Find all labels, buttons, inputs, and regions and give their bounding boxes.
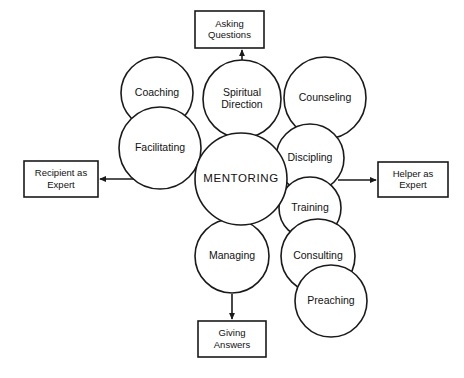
node-preaching[interactable]: Preaching: [295, 265, 367, 337]
node-label-coaching: Coaching: [135, 86, 180, 98]
node-asking-questions[interactable]: AskingQuestions: [195, 11, 264, 48]
node-label-discipling: Discipling: [288, 151, 333, 163]
node-facilitating[interactable]: Facilitating: [119, 107, 201, 189]
node-helper-expert[interactable]: Helper asExpert: [378, 162, 448, 197]
node-label-mentoring: MENTORING: [203, 172, 278, 184]
node-label-facilitating: Facilitating: [135, 141, 185, 153]
node-mentoring[interactable]: MENTORING: [195, 133, 287, 225]
node-label-counseling: Counseling: [299, 91, 352, 103]
node-label-managing: Managing: [209, 249, 255, 261]
node-managing[interactable]: Managing: [195, 219, 269, 293]
node-label-training: Training: [291, 201, 329, 213]
center-node-layer: MENTORING: [195, 133, 287, 225]
node-spiritual-direction[interactable]: SpiritualDirection: [203, 60, 281, 138]
node-label-spiritual-direction: SpiritualDirection: [221, 86, 263, 111]
node-giving-answers[interactable]: GivingAnswers: [198, 321, 266, 357]
node-label-preaching: Preaching: [307, 294, 354, 306]
mentoring-continuum-diagram: CoachingFacilitatingSpiritualDirectionCo…: [0, 0, 464, 378]
node-label-consulting: Consulting: [293, 249, 343, 261]
diagram-canvas: CoachingFacilitatingSpiritualDirectionCo…: [0, 0, 464, 378]
node-label-giving-answers: GivingAnswers: [214, 327, 251, 350]
node-recipient-expert[interactable]: Recipient asExpert: [24, 161, 98, 197]
